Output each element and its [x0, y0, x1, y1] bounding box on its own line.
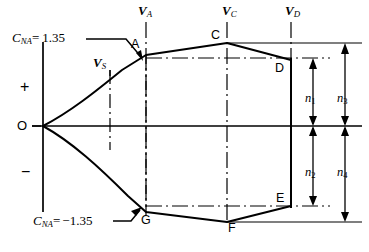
dimension-arrowhead-n2-bottom	[309, 196, 317, 206]
figure-container: CNA=1.35 CNA=−1.35 VS VA VC VD A C D E F…	[0, 0, 369, 252]
label-vd-subscript: D	[294, 9, 300, 19]
label-vc-subscript: C	[231, 9, 237, 19]
point-label-e: E	[276, 192, 284, 205]
point-label-f: F	[228, 222, 236, 235]
label-vc: VC	[222, 4, 237, 19]
dimension-arrowhead-n4-top	[341, 126, 349, 136]
label-cna-negative: CNA=−1.35	[33, 214, 92, 229]
label-vd-symbol: V	[285, 3, 294, 18]
label-n3-subscript: 3	[343, 96, 347, 106]
lower-envelope-curve	[43, 126, 291, 222]
dimension-arrowhead-n3-bottom	[341, 116, 349, 126]
label-n1-subscript: 1	[311, 96, 315, 106]
point-label-a: A	[131, 38, 139, 51]
label-va-subscript: A	[147, 9, 152, 19]
label-cna-positive-equals: =	[32, 30, 39, 45]
dimension-arrowhead-n2-top	[309, 126, 317, 136]
label-cna-negative-subscript: NA	[42, 219, 53, 229]
dimension-arrowhead-n3-top	[341, 43, 349, 54]
label-va-symbol: V	[138, 3, 147, 18]
label-cna-positive-value: 1.35	[42, 30, 65, 45]
label-vc-symbol: V	[222, 3, 231, 18]
label-vs: VS	[93, 56, 106, 71]
label-n4-subscript: 4	[343, 170, 347, 180]
point-label-d: D	[275, 62, 284, 75]
label-cna-negative-value: −1.35	[62, 213, 92, 228]
label-cna-positive: CNA=1.35	[12, 31, 65, 46]
axis-label-plus: +	[20, 79, 29, 95]
dimension-arrowhead-n1-top	[309, 58, 317, 69]
label-n2: n2	[305, 166, 316, 180]
label-cna-positive-subscript: NA	[21, 36, 32, 46]
label-cna-positive-symbol: C	[12, 30, 21, 45]
label-va: VA	[138, 4, 152, 19]
label-vd: VD	[285, 4, 300, 19]
point-label-g: G	[141, 214, 151, 227]
point-label-c: C	[211, 29, 220, 42]
dimension-arrowhead-n4-bottom	[341, 212, 349, 222]
dimension-arrowhead-n1-bottom	[309, 116, 317, 126]
axis-label-minus: −	[21, 164, 30, 180]
axis-label-origin: O	[17, 119, 27, 132]
label-n2-subscript: 2	[311, 170, 315, 180]
label-n4: n4	[337, 166, 348, 180]
label-vs-subscript: S	[102, 61, 106, 71]
label-cna-negative-symbol: C	[33, 213, 42, 228]
upper-envelope-curve	[43, 43, 291, 126]
label-n3: n3	[337, 92, 348, 106]
label-vs-symbol: V	[93, 55, 102, 70]
label-n1: n1	[305, 92, 316, 106]
label-cna-negative-equals: =	[53, 213, 60, 228]
